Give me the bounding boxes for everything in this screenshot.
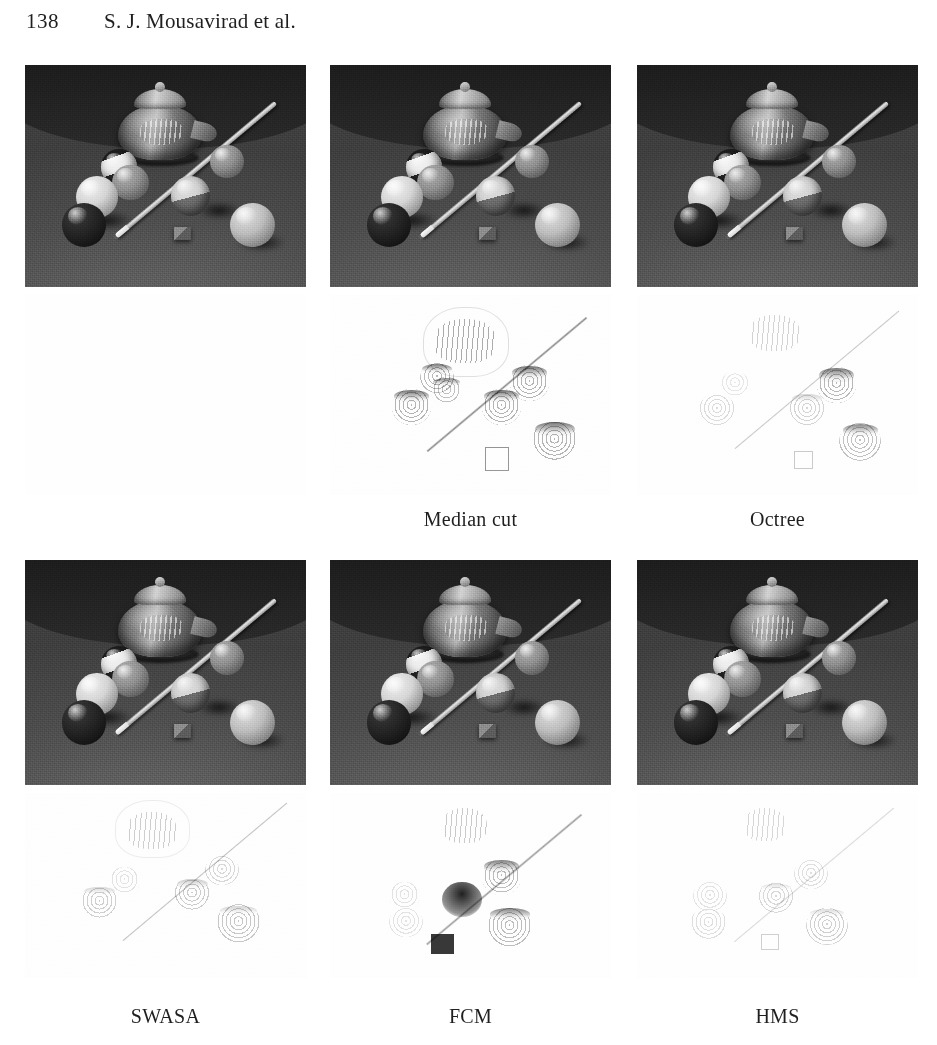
error-ball — [389, 908, 423, 938]
error-ball — [693, 882, 727, 912]
teapot — [118, 85, 202, 160]
caption-fcm: FCM — [330, 1005, 611, 1028]
error-map-hms — [637, 793, 918, 978]
error-canvas — [330, 793, 611, 978]
caption-median-cut: Median cut — [330, 508, 611, 531]
cube-object — [174, 227, 191, 240]
error-ball — [216, 904, 261, 943]
result-image-r2c1 — [25, 560, 306, 785]
error-ball — [817, 367, 856, 403]
cube-object — [479, 227, 496, 240]
result-image-r1c3 — [637, 65, 918, 287]
error-ball — [806, 908, 848, 945]
ball-lightgray — [230, 203, 275, 247]
result-image-r1c2 — [330, 65, 611, 287]
teapot — [423, 580, 507, 657]
teapot-lid — [746, 585, 798, 605]
teapot-knob — [155, 577, 165, 587]
error-cube-dark — [431, 934, 453, 954]
error-ball — [699, 393, 736, 427]
teapot-lid — [439, 585, 491, 605]
error-ball — [431, 377, 462, 405]
ball-dark — [367, 700, 412, 745]
result-image-r2c3 — [637, 560, 918, 785]
error-cube — [761, 934, 780, 951]
error-ball — [839, 423, 881, 461]
error-ball — [109, 867, 140, 895]
teapot-flutes — [139, 119, 182, 145]
ball-lightgray — [842, 700, 887, 745]
cube-object — [479, 724, 496, 738]
photo-scene — [637, 560, 918, 785]
ball-midgray — [515, 641, 549, 675]
error-map-swasa — [25, 793, 306, 978]
photo-scene — [25, 65, 306, 287]
caption-swasa: SWASA — [25, 1005, 306, 1028]
teapot-lid — [134, 89, 186, 109]
teapot-lid — [439, 89, 491, 109]
error-ball — [721, 371, 749, 397]
ball-lightgray — [535, 203, 580, 247]
error-ball — [789, 393, 826, 427]
ball-dark — [62, 700, 107, 745]
teapot-knob — [767, 577, 777, 587]
error-ball — [392, 389, 431, 425]
teapot-knob — [767, 82, 777, 92]
ball-dark — [367, 203, 412, 247]
teapot-body — [423, 600, 507, 657]
error-canvas — [637, 295, 918, 495]
teapot-body — [118, 600, 202, 657]
photo-scene — [25, 560, 306, 785]
result-image-r1c1 — [25, 65, 306, 287]
teapot-flutes — [139, 615, 183, 641]
error-teapot-flutes — [749, 315, 800, 351]
error-ball — [487, 908, 532, 947]
error-ball — [205, 856, 239, 886]
ball-lightgray — [230, 700, 275, 745]
error-ball — [482, 860, 521, 895]
error-canvas — [25, 295, 306, 495]
caption-octree: Octree — [637, 508, 918, 531]
error-teapot-flutes — [434, 319, 496, 363]
error-canvas — [25, 793, 306, 978]
error-canvas — [330, 295, 611, 495]
teapot-flutes — [751, 119, 794, 145]
teapot-flutes — [444, 615, 488, 641]
teapot-knob — [460, 577, 470, 587]
ball-midgray — [822, 641, 856, 675]
ball-dark — [62, 203, 107, 247]
ball-dark — [674, 700, 719, 745]
error-ball — [794, 860, 828, 890]
error-cube — [485, 447, 509, 471]
ball-lightgray — [535, 700, 580, 745]
error-teapot-flutes — [126, 812, 177, 849]
teapot-flutes — [751, 615, 795, 641]
error-teapot-flutes — [744, 808, 786, 841]
error-ball — [690, 908, 727, 939]
error-ball — [389, 882, 420, 910]
teapot — [118, 580, 202, 657]
teapot — [730, 85, 814, 160]
error-ball-dark — [442, 882, 481, 917]
teapot-flutes — [444, 119, 487, 145]
cube-object — [786, 724, 803, 738]
error-map-r1c1-empty — [25, 295, 306, 495]
teapot-body — [730, 600, 814, 657]
error-ball — [532, 421, 577, 461]
figure-comparison-grid: Median cut Octree — [0, 0, 937, 1045]
photo-scene — [330, 65, 611, 287]
ball-lightgray — [842, 203, 887, 247]
error-cube — [794, 451, 813, 469]
ball-dark — [674, 203, 719, 247]
error-ball — [174, 878, 211, 911]
error-ball — [510, 365, 549, 401]
error-ball — [758, 882, 795, 913]
caption-hms: HMS — [637, 1005, 918, 1028]
teapot — [730, 580, 814, 657]
teapot-lid — [746, 89, 798, 109]
error-map-fcm — [330, 793, 611, 978]
error-canvas — [637, 793, 918, 978]
teapot-lid — [134, 585, 186, 605]
teapot-knob — [460, 82, 470, 92]
ball-midgray — [210, 641, 244, 675]
